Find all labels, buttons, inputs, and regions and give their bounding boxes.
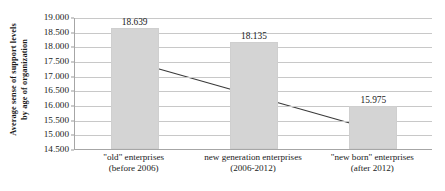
y-axis-tick-label: 19.000 xyxy=(44,13,69,22)
bar xyxy=(111,28,159,149)
x-axis-category-label: "old" enterprises(before 2006) xyxy=(74,152,193,175)
y-axis-title-line-2: by age of organization xyxy=(19,23,30,136)
bar-value-label: 18.639 xyxy=(95,17,175,27)
bar-chart: Average sense of support levels by age o… xyxy=(0,0,445,191)
y-axis-tick-label: 16.500 xyxy=(44,87,69,96)
x-axis-category-label-line: "old" enterprises xyxy=(74,152,193,163)
x-axis-category-label-line: (2006-2012) xyxy=(193,163,312,174)
y-axis-tick-labels: 19.00018.50018.00017.50017.00016.50016.0… xyxy=(36,18,72,150)
y-axis-tick-label: 14.500 xyxy=(44,145,69,154)
y-axis-tick-label: 18.500 xyxy=(44,28,69,37)
x-axis-category-label-line: "new born" enterprises xyxy=(313,152,432,163)
x-axis-category-label: "new born" enterprises(after 2012) xyxy=(313,152,432,175)
y-axis-tick-label: 17.500 xyxy=(44,57,69,66)
plot-area: 18.63918.13515.975 xyxy=(74,18,432,150)
y-axis-title-line-1: Average sense of support levels xyxy=(9,23,20,136)
x-axis-category-label-line: (before 2006) xyxy=(74,163,193,174)
x-axis-category-labels: "old" enterprises(before 2006)new genera… xyxy=(74,152,432,190)
y-axis-tick-label: 18.000 xyxy=(44,43,69,52)
x-axis-category-label: new generation enterprises(2006-2012) xyxy=(193,152,312,175)
y-axis-tick-label: 15.500 xyxy=(44,116,69,125)
y-axis-tick-label: 15.000 xyxy=(44,131,69,140)
x-axis-category-label-line: (after 2012) xyxy=(313,163,432,174)
y-axis-tick-label: 16.000 xyxy=(44,101,69,110)
y-axis-tick-label: 17.000 xyxy=(44,72,69,81)
bar-value-label: 15.975 xyxy=(333,95,413,105)
bar-value-label: 18.135 xyxy=(214,31,294,41)
bar xyxy=(230,42,278,149)
bar xyxy=(349,106,397,149)
y-axis-title: Average sense of support levels by age o… xyxy=(0,0,38,158)
x-axis-category-label-line: new generation enterprises xyxy=(193,152,312,163)
